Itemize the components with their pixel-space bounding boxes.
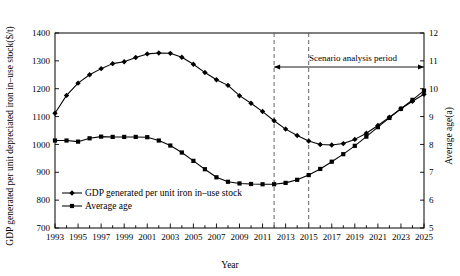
data-point-marker xyxy=(111,135,115,139)
line-chart: 70080090010001100120013001400 5678910111… xyxy=(0,0,460,276)
data-point-marker xyxy=(53,138,57,142)
data-point-marker xyxy=(387,116,391,120)
x-axis-tick-label: 2003 xyxy=(161,232,180,242)
data-point-marker xyxy=(249,182,253,186)
data-point-marker xyxy=(272,182,276,186)
x-axis-tick-label: 2001 xyxy=(138,232,156,242)
y-axis-right-tick-label: 8 xyxy=(429,140,434,150)
data-point-marker xyxy=(284,181,288,185)
data-point-marker xyxy=(364,135,368,139)
y-axis-right-tick-label: 9 xyxy=(429,112,434,122)
x-axis-tick-label: 2009 xyxy=(231,232,250,242)
y-axis-left-tick-label: 800 xyxy=(37,195,51,205)
y-axis-right-tick-label: 10 xyxy=(429,84,439,94)
x-axis-tick-label: 2015 xyxy=(300,232,319,242)
x-axis-tick-label: 1997 xyxy=(92,232,111,242)
y-axis-left-tick-label: 900 xyxy=(37,167,51,177)
legend-marker xyxy=(70,204,74,208)
x-axis-tick-label: 1993 xyxy=(46,232,65,242)
legend-item: GDP generated per unit iron in–use stock xyxy=(62,188,242,198)
x-axis-tick-label: 2007 xyxy=(207,232,226,242)
y-axis-right-tick-label: 6 xyxy=(429,195,434,205)
data-point-marker xyxy=(399,107,403,111)
y-axis-left-tick-label: 1400 xyxy=(32,28,51,38)
legend-label: Average age xyxy=(85,201,132,211)
x-axis-tick-label: 2019 xyxy=(346,232,365,242)
data-point-marker xyxy=(87,136,91,140)
y-axis-left-tick-label: 1000 xyxy=(32,140,51,150)
scenario-period-label: Scenario analysis period xyxy=(309,53,397,63)
data-point-marker xyxy=(134,135,138,139)
chart-figure: 70080090010001100120013001400 5678910111… xyxy=(0,0,460,276)
data-point-marker xyxy=(307,173,311,177)
x-axis-tick-label: 2025 xyxy=(415,232,434,242)
data-point-marker xyxy=(341,152,345,156)
data-point-marker xyxy=(237,181,241,185)
data-point-marker xyxy=(122,135,126,139)
y-axis-right-tick-label: 12 xyxy=(429,28,438,38)
x-axis-tick-label: 2023 xyxy=(392,232,411,242)
data-point-marker xyxy=(157,138,161,142)
y-axis-right-tick-label: 7 xyxy=(429,167,434,177)
data-point-marker xyxy=(168,143,172,147)
data-point-marker xyxy=(214,175,218,179)
data-point-marker xyxy=(422,89,426,93)
x-axis-tick-label: 2011 xyxy=(254,232,272,242)
data-point-marker xyxy=(295,178,299,182)
data-point-marker xyxy=(145,135,149,139)
data-point-marker xyxy=(99,135,103,139)
x-axis-tick-label: 2013 xyxy=(277,232,296,242)
data-point-marker xyxy=(76,140,80,144)
data-point-marker xyxy=(64,138,68,142)
y-axis-left-tick-label: 1300 xyxy=(32,56,51,66)
data-point-marker xyxy=(260,182,264,186)
y-axis-right-title: Average age(a) xyxy=(444,107,455,165)
y-axis-left-tick-label: 1100 xyxy=(32,112,50,122)
y-axis-right-tick-label: 11 xyxy=(429,56,438,66)
data-point-marker xyxy=(180,150,184,154)
data-point-marker xyxy=(226,180,230,184)
data-point-marker xyxy=(318,167,322,171)
data-point-marker xyxy=(330,160,334,164)
x-axis-tick-label: 1995 xyxy=(69,232,88,242)
x-axis-tick-label: 1999 xyxy=(115,232,134,242)
x-axis-tick-label: 2021 xyxy=(369,232,387,242)
data-point-marker xyxy=(191,159,195,163)
data-point-marker xyxy=(353,144,357,148)
y-axis-left-tick-label: 1200 xyxy=(32,84,51,94)
x-axis-title: Year xyxy=(221,260,239,270)
legend-label: GDP generated per unit iron in–use stock xyxy=(85,188,242,198)
data-point-marker xyxy=(376,125,380,129)
data-point-marker xyxy=(410,98,414,102)
x-axis-tick-label: 2005 xyxy=(184,232,203,242)
data-point-marker xyxy=(203,167,207,171)
y-axis-left-title: GDP generated per unit depreciated iron … xyxy=(5,26,16,245)
x-axis-tick-label: 2017 xyxy=(323,232,342,242)
